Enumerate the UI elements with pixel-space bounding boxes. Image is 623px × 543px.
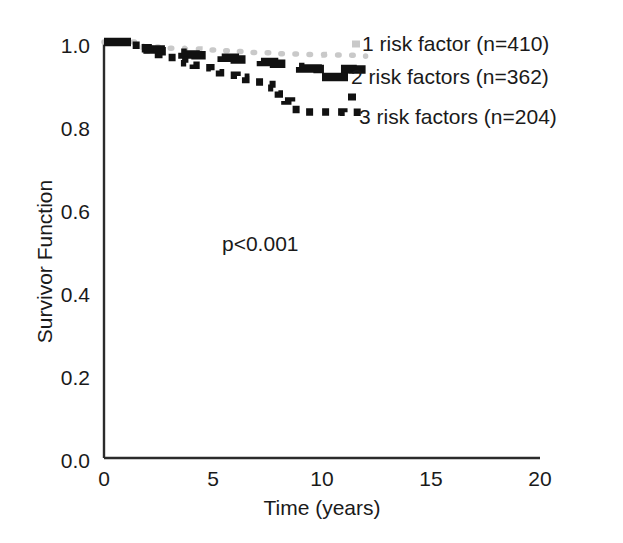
legend-item-1-risk-factor: 1 risk factor (n=410) bbox=[362, 33, 549, 54]
legend-item-2-risk-factors: 2 risk factors (n=362) bbox=[351, 66, 549, 87]
survival-curve-figure: 1.0 0.8 0.6 0.4 0.2 0.0 0 5 10 15 20 Sur… bbox=[0, 0, 623, 543]
y-tick-label-08: 0.8 bbox=[34, 118, 90, 139]
pvalue-annotation: p<0.001 bbox=[222, 233, 299, 254]
x-tick-label-5: 5 bbox=[193, 468, 233, 489]
y-tick-label-02: 0.2 bbox=[34, 367, 90, 388]
x-axis-title: Time (years) bbox=[222, 497, 422, 518]
y-tick-label-00: 0.0 bbox=[34, 450, 90, 471]
x-tick-label-20: 20 bbox=[520, 468, 560, 489]
legend-item-3-risk-factors: 3 risk factors (n=204) bbox=[359, 106, 557, 127]
x-tick-label-10: 10 bbox=[302, 468, 342, 489]
y-tick-label-1: 1.0 bbox=[34, 35, 90, 56]
y-axis-title: Survivor Function bbox=[34, 162, 55, 362]
x-tick-label-0: 0 bbox=[84, 468, 124, 489]
x-tick-label-15: 15 bbox=[411, 468, 451, 489]
